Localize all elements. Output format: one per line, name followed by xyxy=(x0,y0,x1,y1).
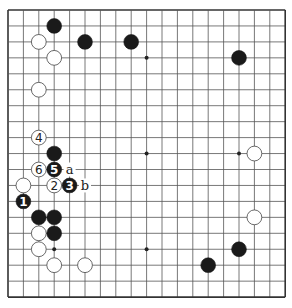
star-point xyxy=(237,152,241,156)
white-stone xyxy=(16,178,31,193)
black-stone xyxy=(47,146,62,161)
white-stone-2: 2 xyxy=(47,178,62,193)
white-stone xyxy=(31,226,46,241)
black-stone xyxy=(47,19,62,34)
black-stone xyxy=(232,50,247,65)
move-number: 1 xyxy=(19,195,27,209)
white-stone xyxy=(247,146,262,161)
black-stone xyxy=(78,35,93,50)
white-stone-4: 4 xyxy=(31,130,46,145)
move-number: 3 xyxy=(65,179,73,193)
black-stone xyxy=(201,258,216,273)
white-stone xyxy=(78,258,93,273)
go-board: ab 465231 xyxy=(0,0,292,308)
black-stone-3: 3 xyxy=(62,178,77,193)
marker-a: a xyxy=(66,162,74,177)
move-number: 4 xyxy=(35,131,43,145)
black-stone-5: 5 xyxy=(47,162,62,177)
black-stone xyxy=(31,210,46,225)
black-stone-1: 1 xyxy=(16,194,31,209)
move-number: 2 xyxy=(50,179,58,193)
move-number: 5 xyxy=(50,163,58,177)
black-stone xyxy=(47,210,62,225)
white-stone xyxy=(47,258,62,273)
marker-b: b xyxy=(81,178,89,193)
white-stone xyxy=(47,50,62,65)
black-stone xyxy=(47,226,62,241)
star-point xyxy=(145,152,149,156)
white-stone xyxy=(247,210,262,225)
white-stone-6: 6 xyxy=(31,162,46,177)
stones: 465231 xyxy=(16,19,262,273)
white-stone xyxy=(31,82,46,97)
star-point xyxy=(145,247,149,251)
black-stone xyxy=(124,35,139,50)
star-point xyxy=(145,56,149,60)
move-number: 6 xyxy=(35,163,43,177)
white-stone xyxy=(31,242,46,257)
black-stone xyxy=(232,242,247,257)
white-stone xyxy=(31,35,46,50)
star-point xyxy=(52,247,56,251)
